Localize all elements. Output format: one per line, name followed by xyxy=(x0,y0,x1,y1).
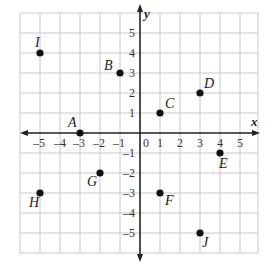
svg-text:–2: –2 xyxy=(122,166,135,180)
svg-text:5: 5 xyxy=(237,136,243,150)
svg-text:B: B xyxy=(104,58,113,73)
y-axis-label: y xyxy=(142,6,150,21)
svg-text:F: F xyxy=(164,193,174,208)
point-d: D xyxy=(196,76,214,97)
svg-text:3: 3 xyxy=(129,66,135,80)
svg-text:–5: –5 xyxy=(122,226,135,240)
svg-text:4: 4 xyxy=(217,136,223,150)
svg-text:C: C xyxy=(165,96,175,111)
svg-text:1: 1 xyxy=(129,106,135,120)
point-c: C xyxy=(156,96,175,117)
point-b: B xyxy=(104,58,124,77)
coordinate-plane: x y –5 –4 –3 –2 –1 0 1 2 3 4 5 5 4 3 2 1… xyxy=(0,0,272,270)
svg-text:A: A xyxy=(67,115,77,130)
svg-text:–4: –4 xyxy=(122,206,135,220)
svg-text:4: 4 xyxy=(129,46,135,60)
svg-text:–3: –3 xyxy=(72,136,85,150)
x-tick-labels: –5 –4 –3 –2 –1 0 1 2 3 4 5 xyxy=(32,136,243,150)
svg-text:–5: –5 xyxy=(32,136,45,150)
svg-text:–1: –1 xyxy=(122,146,135,160)
x-axis-label: x xyxy=(250,114,258,129)
svg-text:3: 3 xyxy=(197,136,203,150)
svg-text:D: D xyxy=(203,76,214,91)
point-j: J xyxy=(196,229,209,250)
point-g: G xyxy=(87,169,104,189)
svg-text:2: 2 xyxy=(129,86,135,100)
svg-text:2: 2 xyxy=(177,136,183,150)
svg-text:5: 5 xyxy=(129,26,135,40)
svg-text:J: J xyxy=(202,235,209,250)
svg-text:–2: –2 xyxy=(92,136,105,150)
point-f: F xyxy=(156,189,174,208)
svg-text:–3: –3 xyxy=(122,186,135,200)
svg-text:1: 1 xyxy=(157,136,163,150)
svg-text:E: E xyxy=(218,156,228,171)
svg-text:0: 0 xyxy=(143,136,149,150)
svg-text:G: G xyxy=(87,174,97,189)
point-h: H xyxy=(28,189,44,210)
svg-text:H: H xyxy=(28,195,40,210)
svg-text:–4: –4 xyxy=(53,136,66,150)
